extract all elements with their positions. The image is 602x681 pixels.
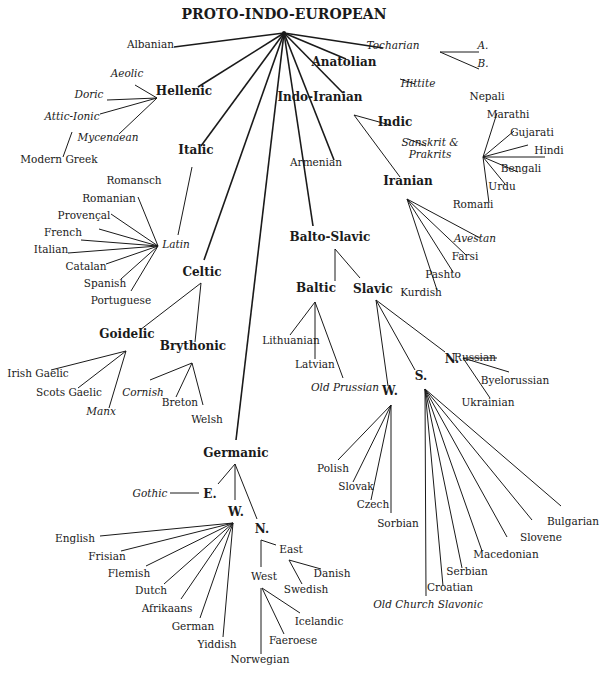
- node-norwegian: Norwegian: [231, 653, 290, 665]
- branch-line: [425, 389, 426, 596]
- node-polish: Polish: [317, 462, 349, 474]
- node-goidelic: Goidelic: [99, 327, 154, 341]
- node-irishgaelic: Irish Gaelic: [7, 367, 68, 379]
- branch-line: [135, 85, 157, 98]
- node-scotsgaelic: Scots Gaelic: [36, 386, 102, 398]
- node-lithuanian: Lithuanian: [262, 334, 319, 346]
- branch-line: [195, 283, 201, 342]
- node-germN: N.: [255, 522, 269, 536]
- node-french: French: [44, 226, 82, 238]
- root-branch-line: [201, 33, 284, 146]
- node-tochA: A.: [478, 39, 489, 51]
- branch-line: [121, 246, 158, 279]
- node-afrikaans: Afrikaans: [142, 602, 193, 614]
- branch-line: [68, 246, 158, 253]
- node-marathi: Marathi: [487, 108, 530, 120]
- node-atticionic: Attic-Ionic: [44, 110, 99, 122]
- node-iranian: Iranian: [383, 174, 433, 188]
- branch-line: [425, 389, 443, 586]
- node-east: East: [279, 543, 303, 555]
- node-yiddish: Yiddish: [197, 638, 236, 650]
- root-branch-line: [198, 33, 284, 87]
- node-romanian: Romanian: [82, 192, 136, 204]
- node-icelandic: Icelandic: [295, 615, 344, 627]
- node-gothic: Gothic: [133, 487, 168, 499]
- node-slovene: Slovene: [520, 531, 562, 543]
- node-urdu: Urdu: [488, 180, 515, 192]
- node-welsh: Welsh: [191, 413, 223, 425]
- node-farsi: Farsi: [452, 250, 479, 262]
- branch-line: [425, 389, 507, 537]
- branch-line: [78, 351, 126, 388]
- root-branch-line: [284, 33, 313, 226]
- branch-line: [376, 300, 415, 370]
- branch-line: [223, 523, 233, 637]
- node-nepali: Nepali: [469, 90, 504, 102]
- branch-line: [109, 351, 126, 408]
- node-armenian: Armenian: [290, 156, 342, 168]
- branch-line: [218, 464, 235, 484]
- node-germW: W.: [228, 505, 244, 519]
- node-provencal: Provençal: [58, 209, 111, 221]
- node-ocs: Old Church Slavonic: [373, 598, 483, 610]
- node-slavic: Slavic: [353, 282, 393, 296]
- node-germanic: Germanic: [203, 446, 268, 460]
- node-tocharian: Tocharian: [367, 39, 420, 51]
- node-romani: Romani: [453, 198, 494, 210]
- node-czech: Czech: [357, 498, 389, 510]
- node-oldprussian: Old Prussian: [311, 381, 379, 393]
- root-branch-line: [204, 33, 284, 260]
- node-celtic: Celtic: [182, 265, 221, 279]
- node-ukrainian: Ukrainian: [462, 396, 515, 408]
- node-west: West: [251, 570, 277, 582]
- node-avestan: Avestan: [454, 232, 496, 244]
- node-germE: E.: [203, 487, 216, 501]
- node-baltoslavic: Balto-Slavic: [290, 230, 371, 244]
- node-catalan: Catalan: [65, 260, 106, 272]
- node-italian: Italian: [34, 243, 68, 255]
- node-aeolic: Aeolic: [111, 67, 144, 79]
- node-croatian: Croatian: [427, 581, 473, 593]
- node-spanish: Spanish: [84, 277, 126, 289]
- node-anatolian: Anatolian: [312, 55, 377, 69]
- node-english: English: [55, 532, 95, 544]
- node-doric: Doric: [75, 88, 104, 100]
- node-hindi: Hindi: [534, 144, 563, 156]
- node-latvian: Latvian: [295, 358, 335, 370]
- branch-line: [376, 300, 445, 352]
- node-manx: Manx: [86, 405, 116, 417]
- branch-line: [140, 283, 201, 330]
- node-pashto: Pashto: [425, 268, 461, 280]
- node-kurdish: Kurdish: [400, 286, 442, 298]
- node-breton: Breton: [162, 396, 198, 408]
- node-moderngreek: Modern Greek: [20, 153, 97, 165]
- branch-line: [338, 405, 391, 460]
- node-byelorussian: Byelorussian: [481, 374, 549, 386]
- branch-line: [425, 389, 532, 520]
- node-mycenaean: Mycenaean: [77, 131, 138, 143]
- node-bulgarian: Bulgarian: [547, 515, 599, 527]
- branch-line: [335, 249, 360, 278]
- node-gujarati: Gujarati: [510, 126, 554, 138]
- node-dutch: Dutch: [135, 584, 167, 596]
- branch-line: [106, 246, 158, 264]
- node-latin: Latin: [162, 238, 190, 250]
- branch-line: [371, 405, 391, 500]
- branch-line: [353, 405, 391, 482]
- node-danish: Danish: [314, 567, 351, 579]
- node-faeroese: Faeroese: [269, 634, 317, 646]
- node-russian: Russian: [454, 351, 496, 363]
- branch-line: [261, 540, 276, 545]
- node-indic: Indic: [378, 115, 413, 129]
- branch-line: [376, 300, 388, 386]
- node-portuguese: Portuguese: [91, 294, 151, 306]
- node-flemish: Flemish: [108, 567, 150, 579]
- node-romansch: Romansch: [106, 174, 161, 186]
- branch-line: [178, 167, 192, 235]
- node-cornish: Cornish: [122, 386, 164, 398]
- node-swedish: Swedish: [284, 583, 329, 595]
- node-slavW: W.: [382, 384, 398, 398]
- branch-line: [440, 52, 479, 69]
- branch-line: [100, 523, 233, 536]
- node-bengali: Bengali: [501, 162, 541, 174]
